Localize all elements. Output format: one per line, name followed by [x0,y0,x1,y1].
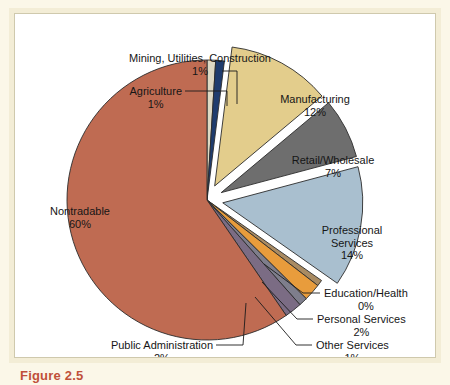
pie-slice-label-name: Nontradable [50,205,110,218]
pie-slice-label: Nontradable60% [50,205,110,230]
pie-slice-label-value: 12% [280,106,350,119]
figure-caption-label: Figure 2.5 [20,368,83,383]
pie-slice-label-value: 0% [324,300,408,313]
pie-slice-label-value: 7% [292,167,375,180]
pie-slice-label-value: 1% [129,98,182,111]
pie-slice-label: ProfessionalServices14% [322,224,383,262]
pie-slice-label-value: 14% [322,249,383,262]
pie-slice-label: Retail/Wholesale7% [292,154,375,179]
pie-slice-label-value: 1% [316,352,389,358]
pie-slice-label-name: Agriculture [129,85,182,98]
pie-slice-label-name: Manufacturing [280,93,350,106]
pie-slice-label-name: Mining, Utilities, Construction [129,52,271,65]
pie-slice-label: Manufacturing12% [280,93,350,118]
pie-slice-label: Public Administration2% [111,339,213,357]
pie-slice-label-name: Personal Services [317,313,406,326]
pie-slice-label-name: Public Administration [111,339,213,352]
pie-chart-plot-area: Agriculture1%Mining, Utilities, Construc… [15,14,435,357]
pie-slice-label-value: 2% [111,352,213,358]
pie-slice-label-name: Other Services [316,339,389,352]
figure-caption-strip: Figure 2.5 [9,366,441,385]
pie-slice-label: Personal Services2% [317,313,406,338]
pie-slice-label-value: 60% [50,218,110,231]
pie-slice-label-value: 2% [317,326,406,339]
figure-root: Agriculture1%Mining, Utilities, Construc… [0,0,450,385]
pie-slice-label-value: 1% [129,65,271,78]
pie-slice-label: Mining, Utilities, Construction1% [129,52,271,77]
pie-slice-label: Agriculture1% [129,85,182,110]
pie-slice-label-name: ProfessionalServices [322,224,383,249]
pie-slice-label-name: Retail/Wholesale [292,154,375,167]
pie-slice-label-name: Education/Health [324,287,408,300]
pie-slice-label: Education/Health0% [324,287,408,312]
pie-slice-label: Other Services1% [316,339,389,357]
